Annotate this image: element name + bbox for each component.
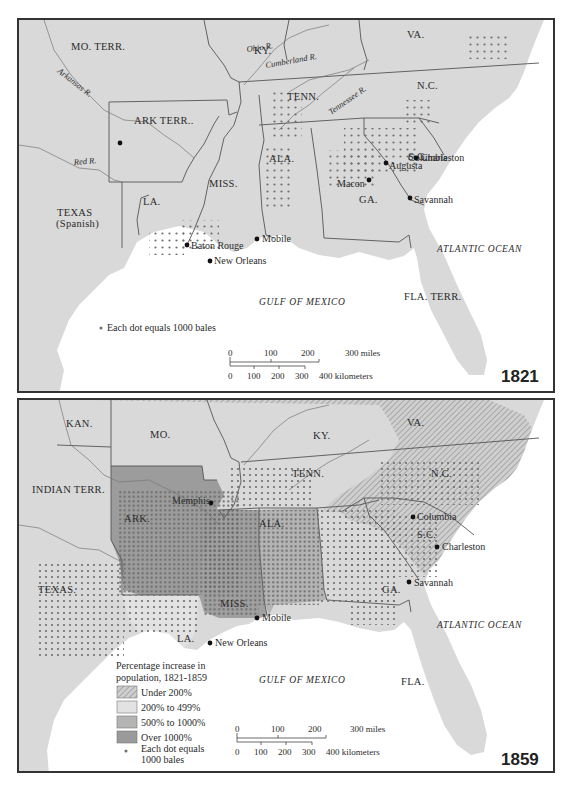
legend-label-under-200: Under 200% (141, 687, 192, 698)
legend-swatch-under-200 (117, 686, 137, 698)
map-1821-canvas: MO. TERR. KY. VA. ARK TERR.. TENN. N.C. … (19, 20, 555, 393)
label-cumberland-river: Cumberland R. (265, 51, 318, 70)
city-new-orleans: New Orleans (214, 255, 267, 266)
label-red-river: Red R. (72, 155, 96, 167)
scale-miles-300: 300 miles (350, 724, 386, 734)
legend-label-500-1000: 500% to 1000% (141, 717, 205, 728)
label-gulf-of-mexico: GULF OF MEXICO (259, 297, 346, 307)
label-tennessee-river: Tennessee R. (326, 83, 367, 116)
scale-km-0: 0 (235, 747, 240, 757)
scale-miles-300: 300 miles (345, 348, 381, 358)
label-texas-sub: (Spanish) (56, 218, 99, 230)
city-marker-augusta (384, 161, 389, 166)
city-memphis: Memphis (172, 495, 210, 506)
label-indian-terr: INDIAN TERR. (32, 484, 105, 495)
label-ga: GA. (359, 194, 378, 205)
city-new-orleans: New Orleans (215, 637, 268, 648)
legend-dot-text: Each dot equals 1000 bales (107, 322, 216, 333)
label-tenn: TENN. (292, 468, 324, 479)
label-kan: KAN. (66, 418, 93, 429)
city-charleston: Charleston (442, 541, 485, 552)
legend-swatch-200-499 (117, 701, 137, 713)
label-miss: MISS. (209, 178, 238, 189)
label-nc: N.C. (417, 80, 438, 91)
city-marker-baton-rouge (185, 243, 190, 248)
scale-km-400: 400 kilometers (319, 371, 373, 381)
city-marker-new-orleans (208, 259, 213, 264)
scale-km-100: 100 (247, 371, 261, 381)
city-marker-new-orleans (208, 641, 213, 646)
label-miss: MISS. (220, 598, 249, 609)
legend-label-over-1000: Over 1000% (141, 732, 192, 743)
label-ga: GA. (382, 584, 401, 595)
city-columbia: Columbia (417, 511, 457, 522)
scale-miles-0: 0 (235, 724, 240, 734)
city-savannah: Savannah (414, 194, 453, 205)
scale-km-300: 300 (295, 371, 309, 381)
city-marker-mobile (255, 616, 260, 621)
label-mo: MO. (150, 429, 170, 440)
year-label-1821: 1821 (501, 367, 539, 386)
label-mo-terr: MO. TERR. (71, 41, 125, 52)
legend-dot-icon (125, 750, 128, 753)
city-augusta: Augusta (389, 160, 423, 171)
label-fla-terr: FLA. TERR. (404, 291, 461, 302)
city-mobile: Mobile (262, 612, 291, 623)
scale-km-200: 200 (278, 747, 292, 757)
map-1821: MO. TERR. KY. VA. ARK TERR.. TENN. N.C. … (17, 18, 555, 393)
label-texas: TEXAS. (38, 584, 76, 595)
label-tenn: TENN. (287, 91, 319, 102)
year-label-1859: 1859 (501, 750, 539, 769)
city-mobile: Mobile (262, 233, 291, 244)
city-marker-savannah (408, 196, 413, 201)
city-macon: Macon (337, 178, 365, 189)
label-va: VA. (407, 29, 424, 40)
legend-dot-text-1: Each dot equals (141, 743, 204, 754)
label-gulf-of-mexico: GULF OF MEXICO (259, 675, 346, 685)
city-marker-savannah (407, 580, 412, 585)
legend-swatch-500-1000 (117, 716, 137, 728)
label-nc: N.C. (431, 468, 452, 479)
scale-miles-200: 200 (308, 724, 322, 734)
legend-dot-icon (100, 327, 103, 330)
scale-miles-200: 200 (301, 348, 315, 358)
label-va: VA. (407, 417, 424, 428)
label-ark: ARK. (124, 513, 150, 524)
label-atlantic-ocean: ATLANTIC OCEAN (436, 244, 522, 254)
label-ala: ALA. (259, 518, 284, 529)
legend-dot-text-2: 1000 bales (141, 754, 184, 765)
legend-title-2: population, 1821-1859 (116, 672, 207, 683)
city-savannah: Savannah (414, 577, 453, 588)
scale-miles-100: 100 (264, 348, 278, 358)
label-arkansas-river: Arkansas R. (55, 65, 94, 99)
city-baton-rouge: Baton Rouge (191, 240, 244, 251)
scale-miles-0: 0 (228, 348, 233, 358)
legend-label-200-499: 200% to 499% (141, 702, 200, 713)
scale-km-100: 100 (254, 747, 268, 757)
scale-km-300: 300 (302, 747, 316, 757)
label-ark-terr: ARK TERR.. (134, 115, 194, 126)
city-marker-mobile (255, 237, 260, 242)
map-1859-canvas: KAN. MO. KY. VA. INDIAN TERR. TENN. N.C.… (19, 400, 555, 773)
scale-km-400: 400 kilometers (326, 747, 380, 757)
label-ky: KY. (313, 430, 330, 441)
label-ala: ALA. (269, 153, 294, 164)
map-1859: KAN. MO. KY. VA. INDIAN TERR. TENN. N.C.… (17, 398, 555, 773)
scale-km-200: 200 (271, 371, 285, 381)
city-marker-macon (367, 178, 372, 183)
label-sc: S.C. (417, 529, 436, 540)
label-fla: FLA. (401, 676, 425, 687)
label-atlantic-ocean: ATLANTIC OCEAN (436, 620, 522, 630)
label-la: LA. (143, 196, 161, 207)
city-marker-charleston (435, 545, 440, 550)
label-texas: TEXAS (57, 207, 92, 218)
city-marker-columbia (411, 515, 416, 520)
legend-title-1: Percentage increase in (116, 660, 205, 671)
label-la: LA. (177, 633, 195, 644)
gulf-of-mexico (57, 20, 555, 393)
scale-km-0: 0 (228, 371, 233, 381)
legend-swatch-over-1000 (117, 731, 137, 743)
city-charleston: Charleston (421, 152, 464, 163)
scale-miles-100: 100 (271, 724, 285, 734)
